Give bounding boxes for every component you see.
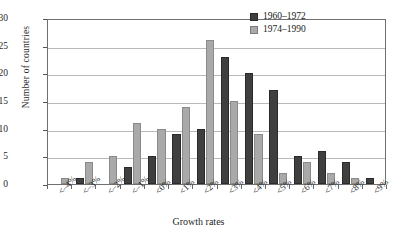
bar — [230, 101, 238, 184]
bars-layer — [48, 20, 385, 184]
bar — [182, 107, 190, 184]
bar — [221, 57, 229, 184]
y-tick-label: 0 — [0, 180, 8, 190]
legend-swatch-icon — [250, 13, 258, 21]
bar-chart: Number of countries 051015202530 <–4%<–3… — [0, 0, 397, 238]
bar — [172, 134, 180, 184]
bar — [206, 40, 214, 184]
y-tick-label: 10 — [0, 125, 8, 135]
bar — [197, 129, 205, 184]
legend-item: 1974–1990 — [250, 23, 306, 36]
bar — [269, 90, 277, 184]
bar — [245, 73, 253, 184]
bar — [366, 178, 374, 184]
y-axis-title: Number of countries — [21, 0, 31, 137]
bar — [318, 151, 326, 184]
plot-area — [47, 19, 386, 185]
x-axis-title: Growth rates — [0, 216, 397, 227]
bar — [133, 123, 141, 184]
y-tick-label: 30 — [0, 14, 8, 24]
bar — [342, 162, 350, 184]
y-tick-label: 20 — [0, 69, 8, 79]
legend-item-label: 1974–1990 — [263, 23, 306, 36]
y-tick-label: 25 — [0, 42, 8, 52]
x-tick-mark — [47, 185, 48, 189]
legend-swatch-icon — [250, 26, 258, 34]
y-tick-label: 15 — [0, 97, 8, 107]
bar — [294, 156, 302, 184]
legend-item-label: 1960–1972 — [263, 10, 306, 23]
legend-item: 1960–1972 — [250, 10, 306, 23]
legend: 1960–1972 1974–1990 — [250, 10, 306, 36]
y-tick-label: 5 — [0, 152, 8, 162]
